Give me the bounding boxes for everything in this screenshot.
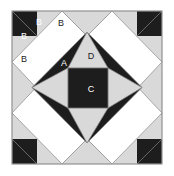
label-a: A: [61, 58, 67, 68]
label-b-1: B: [36, 17, 42, 27]
label-b-4: B: [21, 54, 27, 64]
label-b-3: B: [21, 31, 27, 41]
label-c: C: [88, 84, 95, 94]
quilt-block-figure: B B B B A D C: [0, 0, 174, 176]
label-d: D: [88, 51, 95, 61]
quilt-block-diagram: B B B B A D C: [0, 0, 174, 176]
label-b-2: B: [58, 18, 64, 28]
